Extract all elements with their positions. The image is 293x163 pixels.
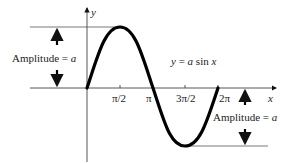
equation-x: x: [211, 55, 216, 67]
x-axis-label: x: [268, 92, 273, 104]
tick-label-2pi: 2π: [219, 92, 230, 104]
tick-label-pi: π: [146, 92, 152, 104]
amplitude-right-text: Amplitude =: [213, 111, 272, 123]
tick-label-pi-over-2: π/2: [112, 92, 126, 104]
equation-sin: sin: [193, 55, 211, 67]
sine-curve: [87, 27, 218, 146]
y-axis-label: y: [91, 6, 96, 18]
amplitude-left-text: Amplitude =: [12, 52, 71, 64]
sine-chart: [0, 0, 293, 163]
amplitude-left-label: Amplitude = a: [12, 52, 76, 64]
amplitude-right-label: Amplitude = a: [213, 111, 277, 123]
equation-equals: =: [176, 55, 188, 67]
amplitude-right-a: a: [272, 111, 278, 123]
equation-label: y = a sin x: [171, 55, 216, 67]
amplitude-left-a: a: [71, 52, 77, 64]
tick-label-3pi-over-2: 3π/2: [176, 92, 196, 104]
